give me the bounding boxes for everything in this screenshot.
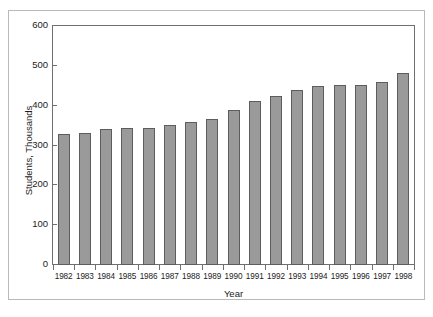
x-axis-tick-mark xyxy=(393,265,394,270)
bars-layer xyxy=(53,26,414,265)
x-axis-title: Year xyxy=(52,288,415,299)
y-axis-tick-mark xyxy=(52,224,57,225)
x-axis-tick-mark xyxy=(372,265,373,270)
x-axis-tick-mark xyxy=(138,265,139,270)
x-axis-tick-mark xyxy=(202,265,203,270)
x-axis-tick-mark xyxy=(308,265,309,270)
bar xyxy=(121,128,133,265)
bar xyxy=(355,85,367,265)
bar xyxy=(143,128,155,265)
bar xyxy=(206,119,218,265)
y-axis-tick-label: 600 xyxy=(8,20,48,30)
bar xyxy=(79,133,91,265)
x-axis-tick-mark xyxy=(287,265,288,270)
bar xyxy=(249,101,261,265)
x-axis-tick-mark xyxy=(265,265,266,270)
x-axis-tick-mark xyxy=(223,265,224,270)
y-axis-tick-mark xyxy=(52,65,57,66)
x-axis-tick-mark xyxy=(53,265,54,270)
y-axis-tick-label: 500 xyxy=(8,60,48,70)
x-axis-tick-mark xyxy=(95,265,96,270)
chart-figure: 0100200300400500600 Students, Thousands … xyxy=(0,0,433,317)
bar xyxy=(270,96,282,265)
bar xyxy=(185,122,197,265)
bar xyxy=(312,86,324,265)
bar xyxy=(334,85,346,265)
x-axis-tick-mark xyxy=(350,265,351,270)
x-axis-tick-mark xyxy=(74,265,75,270)
x-axis-tick-mark xyxy=(414,265,415,270)
bar xyxy=(100,129,112,265)
bar xyxy=(164,125,176,265)
bar xyxy=(58,134,70,265)
x-axis-tick-mark xyxy=(329,265,330,270)
x-axis-tick-label: 1998 xyxy=(388,272,418,282)
bar xyxy=(291,90,303,265)
x-axis-tick-mark xyxy=(180,265,181,270)
x-axis-tick-mark xyxy=(117,265,118,270)
bar xyxy=(228,110,240,265)
y-axis-tick-mark xyxy=(52,105,57,106)
y-axis-title: Students, Thousands xyxy=(23,76,34,226)
y-axis-tick-mark xyxy=(52,184,57,185)
y-axis-tick-mark xyxy=(52,145,57,146)
bar xyxy=(376,82,388,265)
y-axis-tick-label: 0 xyxy=(8,259,48,269)
bar xyxy=(397,73,409,265)
x-axis-tick-mark xyxy=(244,265,245,270)
x-axis-tick-mark xyxy=(159,265,160,270)
